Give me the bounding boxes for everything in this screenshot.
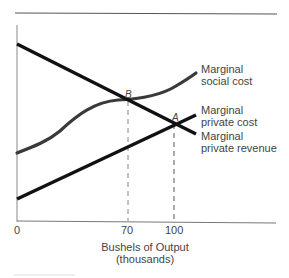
x-tick-70: 70 [121, 224, 133, 236]
marginal-private-cost-line [17, 115, 196, 199]
point-b-label: B [125, 89, 132, 100]
point-a-label: A [171, 112, 179, 123]
mpc-label-line2: private cost [201, 116, 257, 128]
externality-chart: B A Marginal social cost Marginal privat… [0, 0, 289, 278]
marginal-social-cost-curve [17, 73, 196, 153]
msc-label-line2: social cost [201, 75, 252, 87]
x-tick-0: 0 [14, 224, 20, 236]
mpc-label-line1: Marginal [201, 104, 243, 116]
mpr-label-line2: private revenue [201, 142, 277, 154]
x-axis [17, 221, 276, 223]
x-axis-title: Bushels of Output [101, 241, 188, 253]
mpr-label-line1: Marginal [201, 130, 243, 142]
x-tick-100: 100 [165, 224, 183, 236]
msc-label-line1: Marginal [201, 63, 243, 75]
top-rule [15, 13, 277, 14]
x-axis-subtitle: (thousands) [116, 253, 174, 265]
